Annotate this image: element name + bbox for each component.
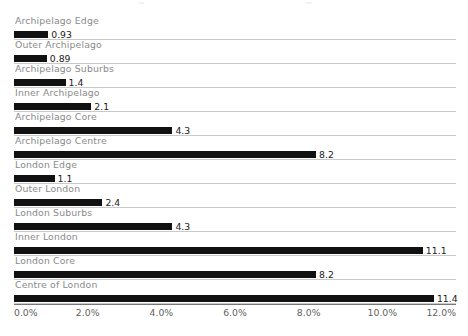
bar-value-label: 2.4 bbox=[102, 197, 120, 208]
bar-track: 1.1 bbox=[14, 175, 456, 182]
x-axis-tick-labels: 0.0%2.0%4.0%6.0%8.0%10.0%12.0% bbox=[14, 307, 456, 321]
category-label: Outer Archipelago bbox=[15, 39, 102, 51]
x-tick-label: 12.0% bbox=[426, 307, 456, 319]
bar-value-label: 11.1 bbox=[423, 245, 447, 256]
category-label: Centre of London bbox=[15, 279, 97, 291]
bar-value-label: 4.3 bbox=[172, 125, 190, 136]
bar bbox=[14, 103, 91, 110]
bar-track: 8.2 bbox=[14, 151, 456, 158]
x-tick-label: 2.0% bbox=[76, 307, 100, 319]
bar bbox=[14, 79, 66, 86]
bar bbox=[14, 295, 434, 302]
bar-track: 2.1 bbox=[14, 103, 456, 110]
x-axis-line bbox=[14, 304, 456, 305]
category-label: Inner London bbox=[15, 231, 78, 243]
clipped-title-artifact bbox=[139, 2, 144, 4]
plot-area: Archipelago Edge0.93Outer Archipelago0.8… bbox=[14, 16, 456, 304]
bar bbox=[14, 55, 47, 62]
bar-value-label: 0.89 bbox=[47, 53, 71, 64]
bar-row: Archipelago Core4.3 bbox=[14, 112, 456, 136]
bar bbox=[14, 151, 316, 158]
bar bbox=[14, 175, 55, 182]
category-label: Inner Archipelago bbox=[15, 87, 100, 99]
x-tick-label: 0.0% bbox=[14, 307, 38, 319]
category-label: Outer London bbox=[15, 183, 80, 195]
category-label: Archipelago Centre bbox=[15, 135, 107, 147]
category-label: London Edge bbox=[15, 159, 77, 171]
bar-value-label: 2.1 bbox=[91, 101, 109, 112]
bar-row: London Edge1.1 bbox=[14, 160, 456, 184]
bar-value-label: 1.4 bbox=[66, 77, 84, 88]
bar-value-label: 0.93 bbox=[48, 29, 72, 40]
category-label: Archipelago Suburbs bbox=[15, 63, 114, 75]
bar-row: Archipelago Suburbs1.4 bbox=[14, 64, 456, 88]
bar-track: 11.1 bbox=[14, 247, 456, 254]
x-tick-label: 4.0% bbox=[150, 307, 174, 319]
bar-track: 11.4 bbox=[14, 295, 456, 302]
bar-track: 8.2 bbox=[14, 271, 456, 278]
bar-track: 1.4 bbox=[14, 79, 456, 86]
bar-row: Archipelago Centre8.2 bbox=[14, 136, 456, 160]
bar-row: London Suburbs4.3 bbox=[14, 208, 456, 232]
x-tick-label: 10.0% bbox=[368, 307, 398, 319]
x-tick-label: 6.0% bbox=[223, 307, 247, 319]
bar-track: 0.93 bbox=[14, 31, 456, 38]
clipped-title-artifact bbox=[305, 2, 312, 4]
bar-row: Centre of London11.4 bbox=[14, 280, 456, 304]
bar-value-label: 8.2 bbox=[316, 269, 334, 280]
category-label: London Suburbs bbox=[15, 207, 92, 219]
bar bbox=[14, 199, 102, 206]
category-label: Archipelago Edge bbox=[15, 15, 99, 27]
bar bbox=[14, 127, 172, 134]
bar bbox=[14, 247, 423, 254]
bar-value-label: 11.4 bbox=[434, 293, 458, 304]
bar-track: 4.3 bbox=[14, 223, 456, 230]
category-label: London Core bbox=[15, 255, 75, 267]
bar bbox=[14, 223, 172, 230]
bar-row: London Core8.2 bbox=[14, 256, 456, 280]
bar bbox=[14, 31, 48, 38]
bar-row: Inner London11.1 bbox=[14, 232, 456, 256]
category-label: Archipelago Core bbox=[15, 111, 97, 123]
bar-value-label: 1.1 bbox=[55, 173, 73, 184]
bar-chart: Archipelago Edge0.93Outer Archipelago0.8… bbox=[0, 0, 468, 336]
bar-track: 4.3 bbox=[14, 127, 456, 134]
bar-row: Archipelago Edge0.93 bbox=[14, 16, 456, 40]
bar-row: Outer Archipelago0.89 bbox=[14, 40, 456, 64]
bar-row: Inner Archipelago2.1 bbox=[14, 88, 456, 112]
bar-row: Outer London2.4 bbox=[14, 184, 456, 208]
bar-track: 0.89 bbox=[14, 55, 456, 62]
bar-value-label: 4.3 bbox=[172, 221, 190, 232]
bar-value-label: 8.2 bbox=[316, 149, 334, 160]
x-tick-label: 8.0% bbox=[297, 307, 321, 319]
bar-track: 2.4 bbox=[14, 199, 456, 206]
bar bbox=[14, 271, 316, 278]
